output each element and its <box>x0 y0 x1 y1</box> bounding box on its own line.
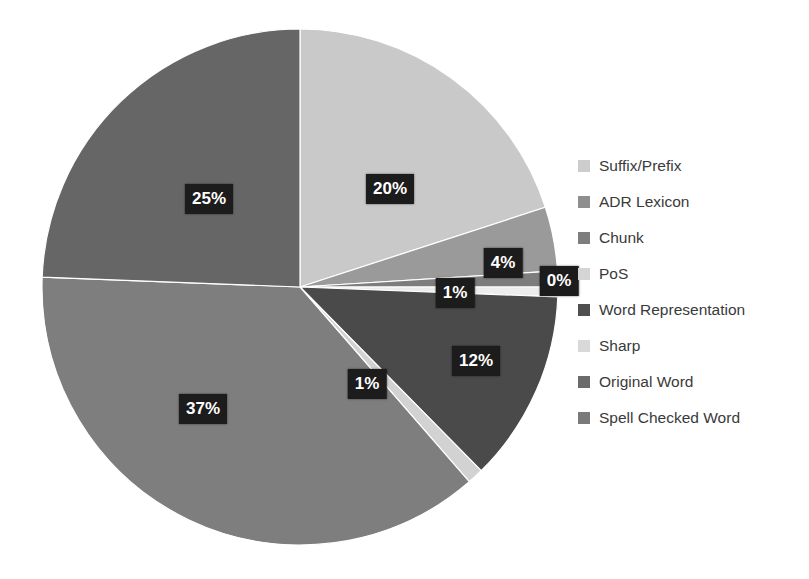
legend-item-spell-checked-word[interactable]: Spell Checked Word <box>578 400 809 436</box>
legend-item-pos[interactable]: PoS <box>578 256 809 292</box>
legend-item-adr-lexicon[interactable]: ADR Lexicon <box>578 184 809 220</box>
pie-slice-original-word[interactable] <box>42 29 300 287</box>
legend-item-suffix-prefix[interactable]: Suffix/Prefix <box>578 148 809 184</box>
legend-swatch-icon <box>578 304 590 316</box>
data-label-pos: 0% <box>540 266 579 296</box>
legend-item-chunk[interactable]: Chunk <box>578 220 809 256</box>
legend-swatch-icon <box>578 376 590 388</box>
legend-item-word-representation[interactable]: Word Representation <box>578 292 809 328</box>
legend-item-label: PoS <box>599 265 628 283</box>
data-label-word-representation: 12% <box>452 346 500 376</box>
legend-item-label: Sharp <box>599 337 640 355</box>
chart-legend: Suffix/PrefixADR LexiconChunkPoSWord Rep… <box>578 148 809 436</box>
legend-swatch-icon <box>578 232 590 244</box>
data-label-original-word: 25% <box>185 184 233 214</box>
pie-chart-figure: 20%4%1%0%12%1%37%25% Suffix/PrefixADR Le… <box>0 0 809 579</box>
legend-swatch-icon <box>578 340 590 352</box>
legend-item-sharp[interactable]: Sharp <box>578 328 809 364</box>
legend-swatch-icon <box>578 412 590 424</box>
legend-swatch-icon <box>578 196 590 208</box>
legend-item-label: Word Representation <box>599 301 745 319</box>
legend-item-label: Original Word <box>599 373 693 391</box>
legend-swatch-icon <box>578 160 590 172</box>
legend-item-label: Suffix/Prefix <box>599 157 681 175</box>
legend-item-label: Spell Checked Word <box>599 409 740 427</box>
data-label-suffix-prefix: 20% <box>366 174 414 204</box>
data-label-chunk: 1% <box>436 278 475 308</box>
pie-plot-area: 20%4%1%0%12%1%37%25% <box>0 0 580 579</box>
legend-item-original-word[interactable]: Original Word <box>578 364 809 400</box>
legend-item-label: ADR Lexicon <box>599 193 689 211</box>
data-label-sharp: 1% <box>348 369 387 399</box>
legend-item-label: Chunk <box>599 229 644 247</box>
data-label-spell-checked-word: 37% <box>179 394 227 424</box>
pie-svg <box>0 0 580 579</box>
data-label-adr-lexicon: 4% <box>484 248 523 278</box>
legend-swatch-icon <box>578 268 590 280</box>
